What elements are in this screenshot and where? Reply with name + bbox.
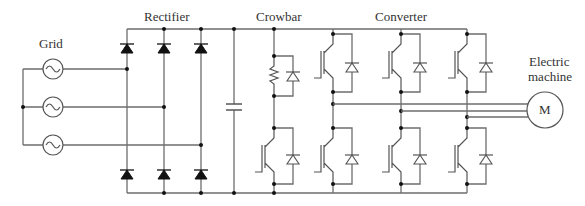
igbt-icon: [448, 128, 467, 184]
motor-phase-lines: [333, 104, 528, 117]
converter-leg-1: [314, 29, 359, 193]
ac-source-icon: [43, 59, 63, 79]
diode-outline-icon: [286, 72, 300, 81]
igbt-icon: [314, 34, 333, 92]
igbt-icon: [255, 128, 274, 184]
igbt-icon: [382, 128, 401, 184]
diode-outline-icon: [479, 155, 493, 164]
schematic: [0, 0, 585, 206]
igbt-icon: [448, 34, 467, 92]
diode-outline-icon: [345, 155, 359, 164]
capacitor-icon: [226, 27, 242, 195]
igbt-icon: [382, 34, 401, 92]
diode-icon: [120, 170, 134, 179]
ac-source-icon: [43, 135, 63, 155]
motor-symbol: M: [539, 103, 551, 117]
diode-icon: [157, 170, 171, 179]
grid-sources: [21, 59, 201, 155]
diode-outline-icon: [479, 63, 493, 72]
diode-outline-icon: [286, 155, 300, 164]
ac-source-icon: [43, 97, 63, 117]
diode-icon: [194, 170, 208, 179]
diode-outline-icon: [345, 63, 359, 72]
rectifier-bridge: [120, 27, 208, 195]
crowbar-circuit: [255, 27, 300, 195]
diode-icon: [120, 44, 134, 53]
diode-outline-icon: [413, 63, 427, 72]
diode-icon: [157, 44, 171, 53]
diode-icon: [194, 44, 208, 53]
resistor-icon: [270, 56, 278, 96]
diode-outline-icon: [413, 155, 427, 164]
igbt-icon: [314, 128, 333, 184]
circuit-diagram: Grid Rectifier Crowbar Converter Electri…: [0, 0, 585, 206]
